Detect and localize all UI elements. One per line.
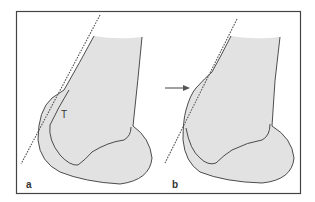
panel-b: b (165, 19, 294, 190)
arrow-icon (165, 85, 190, 91)
annotation-T: T (61, 109, 67, 120)
figure: T a b (0, 0, 315, 202)
panel-a: T a (21, 15, 152, 190)
panel-label-a: a (26, 179, 32, 190)
panel-label-b: b (172, 179, 178, 190)
